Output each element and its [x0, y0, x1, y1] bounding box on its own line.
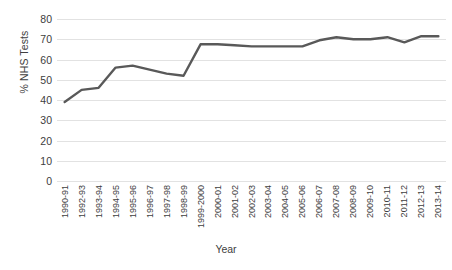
x-axis-tick-text: 2002-03 [247, 185, 257, 218]
x-axis-tick-text: 2008-09 [348, 185, 358, 218]
x-axis-tick-label: 2013-14 [431, 183, 445, 237]
x-axis-tick-label: 1998-99 [177, 183, 191, 237]
x-axis-tick-text: 1993-94 [94, 185, 104, 218]
x-axis-tick-text: 2010-11 [382, 185, 392, 217]
y-axis-tick-labels: 80706050403020100 [0, 0, 57, 200]
y-axis-tick-label: 80 [40, 13, 52, 25]
x-axis-tick-text: 1996-97 [145, 185, 155, 218]
x-axis-tick-label: 2006-07 [312, 183, 326, 237]
y-axis-tick-label: 10 [40, 155, 52, 167]
y-axis-tick-label: 30 [40, 114, 52, 126]
y-axis-tick-label: 60 [40, 54, 52, 66]
x-axis-tick-label: 1993-94 [92, 183, 106, 237]
x-axis-tick-label: 2002-03 [245, 183, 259, 237]
x-axis-tick-text: 1994-95 [111, 185, 121, 218]
y-axis-tick-label: 20 [40, 135, 52, 147]
x-axis-tick-text: 1995-96 [128, 185, 138, 218]
x-axis-tick-label: 1990-91 [58, 183, 72, 237]
x-axis-tick-label: 1996-97 [143, 183, 157, 237]
x-axis-tick-text: 2011-12 [399, 185, 409, 217]
x-axis-tick-label: 1994-95 [109, 183, 123, 237]
x-axis-tick-label: 2003-04 [261, 183, 275, 237]
gridline [57, 181, 446, 182]
x-axis-tick-label: 2001-02 [228, 183, 242, 237]
y-axis-tick-label: 70 [40, 33, 52, 45]
x-axis-tick-labels: 1990-911992-931993-941994-951995-961996-… [57, 183, 446, 239]
x-axis-tick-text: 2006-07 [314, 185, 324, 218]
x-axis-tick-text: 2007-08 [331, 185, 341, 218]
x-axis-tick-text: 2001-02 [230, 185, 240, 218]
x-axis-tick-label: 2012-13 [414, 183, 428, 237]
x-axis-tick-text: 1998-99 [179, 185, 189, 218]
x-axis-tick-text: 2000-01 [213, 185, 223, 218]
x-axis-tick-label: 1999-2000 [194, 183, 208, 237]
x-axis-tick-label: 2000-01 [211, 183, 225, 237]
y-axis-tick-label: 0 [46, 175, 52, 187]
x-axis-tick-label: 2004-05 [278, 183, 292, 237]
x-axis-title: Year [0, 243, 452, 255]
x-axis-tick-label: 2005-06 [295, 183, 309, 237]
x-axis-tick-label: 2009-10 [363, 183, 377, 237]
series-polyline [65, 36, 439, 102]
x-axis-tick-text: 1999-2000 [196, 185, 206, 228]
y-axis-tick-label: 50 [40, 74, 52, 86]
x-axis-tick-label: 2008-09 [346, 183, 360, 237]
x-axis-tick-text: 1997-98 [162, 185, 172, 218]
line-series [57, 19, 446, 181]
x-axis-tick-label: 1997-98 [160, 183, 174, 237]
chart-container: % NHS Tests 80706050403020100 1990-91199… [0, 0, 452, 270]
x-axis-tick-label: 2010-11 [380, 183, 394, 237]
x-axis-tick-label: 1995-96 [126, 183, 140, 237]
x-axis-tick-text: 1990-91 [60, 185, 70, 218]
x-axis-tick-text: 2005-06 [297, 185, 307, 218]
x-axis-tick-text: 2009-10 [365, 185, 375, 218]
x-axis-tick-text: 2013-14 [433, 185, 443, 218]
y-axis-tick-label: 40 [40, 94, 52, 106]
x-axis-tick-label: 1992-93 [75, 183, 89, 237]
x-axis-tick-label: 2007-08 [329, 183, 343, 237]
x-axis-tick-label: 2011-12 [397, 183, 411, 237]
x-axis-tick-text: 2012-13 [416, 185, 426, 218]
x-axis-tick-text: 2004-05 [280, 185, 290, 218]
x-axis-tick-text: 1992-93 [77, 185, 87, 218]
x-axis-tick-text: 2003-04 [263, 185, 273, 218]
plot-area [57, 19, 446, 181]
